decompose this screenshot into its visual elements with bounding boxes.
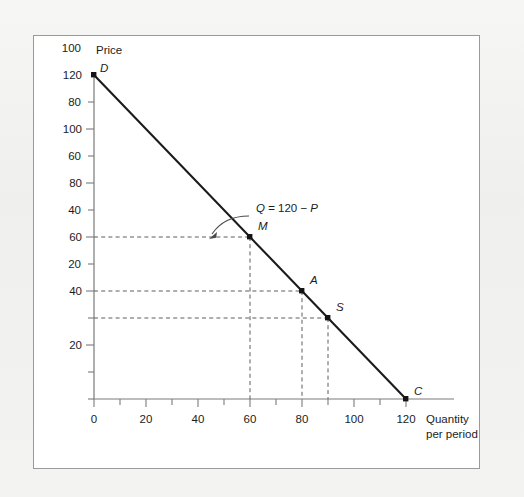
x-label-80: 80 (296, 413, 309, 425)
y-label-60: 60 (69, 231, 82, 243)
y-label-20: 20 (69, 339, 82, 351)
x-label-120: 120 (396, 413, 415, 425)
marker-point-m (247, 234, 252, 239)
marker-point-s (325, 315, 330, 320)
figure-panel: 20 40 60 80 100 20 40 60 80 100 120 0 20… (33, 35, 480, 469)
x-axis-title-line1: Quantity (426, 413, 469, 425)
y-tick-label-60: 60 (68, 150, 81, 162)
equation-operator: = 120 − (265, 202, 310, 214)
point-label-a: A (309, 274, 318, 286)
equation-p-symbol: P (310, 202, 318, 214)
equation-annotation: Q = 120 − P (256, 202, 318, 214)
x-label-0: 0 (91, 413, 97, 425)
y-axis-title: Price (96, 44, 122, 56)
y-label-100: 100 (63, 123, 82, 135)
x-label-40: 40 (192, 413, 205, 425)
y-label-80: 80 (69, 177, 82, 189)
x-label-20: 20 (140, 413, 153, 425)
demand-curve-chart: 20 40 60 80 100 20 40 60 80 100 120 0 20… (34, 36, 481, 470)
x-axis-tick-labels: 0 20 40 60 80 100 120 (91, 413, 416, 425)
y-tick-label-20: 20 (68, 258, 81, 270)
x-label-100: 100 (344, 413, 363, 425)
y-tick-label-80: 80 (68, 96, 81, 108)
y-label-120: 120 (63, 69, 82, 81)
point-label-m: M (258, 220, 268, 232)
y-axis-ticks (86, 102, 94, 399)
y-tick-label-40: 40 (68, 204, 81, 216)
equation-q-symbol: Q (256, 202, 265, 214)
x-label-60: 60 (244, 413, 257, 425)
figure-page: 20 40 60 80 100 20 40 60 80 100 120 0 20… (0, 0, 524, 497)
marker-point-a (299, 288, 304, 293)
x-axis-title-line2: per period (426, 428, 478, 440)
marker-point-c (403, 396, 408, 401)
y-label-40: 40 (69, 285, 82, 297)
x-axis-ticks (94, 399, 406, 407)
point-label-c: C (414, 385, 423, 397)
point-label-s: S (336, 301, 344, 313)
guide-lines (94, 237, 328, 399)
y-tick-label-100: 100 (62, 42, 81, 54)
point-label-d: D (100, 62, 108, 74)
equation-arrow-icon (209, 216, 249, 239)
marker-point-d (91, 72, 96, 77)
